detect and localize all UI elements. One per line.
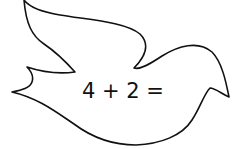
dove-outline-icon [0,0,235,149]
equation-text: 4 + 2 = [82,79,164,103]
math-worksheet: 4 + 2 = [0,0,235,149]
